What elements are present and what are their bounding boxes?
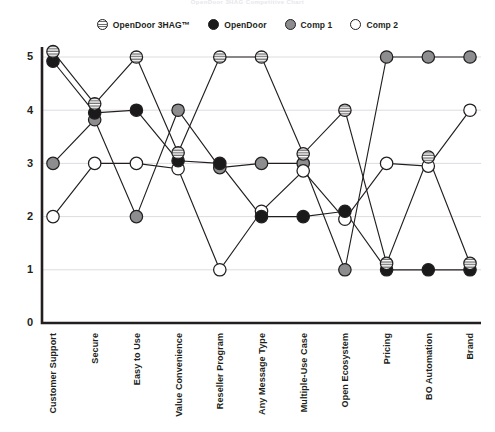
data-point-opendoor [297,210,309,222]
data-point-comp-2 [89,157,101,169]
data-point-opendoor-3hag [214,51,226,63]
y-tick-label: 1 [27,263,33,275]
data-point-opendoor-3hag [339,104,351,116]
data-point-comp-1 [339,264,351,276]
x-tick-label: Open Ecosystem [340,333,350,407]
x-tick-label: Any Message Type [257,333,267,415]
x-axis-labels: Customer SupportSecureEasy to UseValue C… [48,333,475,417]
x-tick-label: Value Convenience [174,333,184,417]
y-tick-label: 0 [27,316,33,328]
data-point-comp-1 [464,51,476,63]
x-tick-label: Brand [465,333,475,360]
data-point-opendoor-3hag [130,51,142,63]
x-tick-label: Pricing [382,333,392,364]
data-point-comp-2 [380,157,392,169]
y-tick-label: 5 [27,50,33,62]
data-point-opendoor [130,104,142,116]
data-point-comp-2 [214,264,226,276]
data-point-comp-1 [172,104,184,116]
data-point-comp-2 [297,165,309,177]
data-point-comp-2 [130,157,142,169]
data-point-comp-1 [255,157,267,169]
x-tick-label: Easy to Use [132,333,142,385]
data-point-opendoor [214,157,226,169]
series-points [47,45,476,276]
data-point-opendoor-3hag [255,51,267,63]
x-tick-label: Secure [90,333,100,364]
data-point-opendoor-3hag [380,257,392,269]
y-tick-label: 3 [27,157,33,169]
data-point-opendoor-3hag [47,45,59,57]
data-point-comp-1 [422,51,434,63]
data-point-opendoor [255,210,267,222]
data-point-opendoor-3hag [464,257,476,269]
data-point-opendoor [339,205,351,217]
series-line-comp-2 [53,110,470,270]
y-tick-label: 4 [27,104,34,116]
data-point-comp-2 [47,210,59,222]
data-point-opendoor-3hag [172,147,184,159]
data-point-comp-1 [380,51,392,63]
data-point-opendoor-3hag [422,151,434,163]
data-point-opendoor-3hag [89,98,101,110]
plot-area: 012345 Customer SupportSecureEasy to Use… [0,0,495,432]
x-tick-label: Customer Support [48,333,58,414]
chart-root: OpenDoor 3HAG Competitive Chart OpenDoor… [0,0,495,432]
y-axis: 012345 [27,47,481,328]
x-tick-label: Reseller Program [215,333,225,409]
data-point-comp-1 [130,210,142,222]
data-point-comp-2 [464,104,476,116]
x-tick-label: BO Automation [424,333,434,400]
chart-svg: 012345 Customer SupportSecureEasy to Use… [0,0,495,432]
data-point-comp-1 [47,157,59,169]
data-point-opendoor [422,264,434,276]
y-tick-label: 2 [27,210,33,222]
x-tick-label: Multiple-Use Case [299,333,309,412]
data-point-opendoor-3hag [297,148,309,160]
